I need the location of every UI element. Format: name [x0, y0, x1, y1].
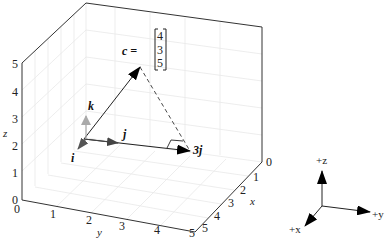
vector-diagram: 5 4 3 2 1 0 z 0 1 2 3 4 5 y 0 1 2 3 4 5 …	[0, 0, 389, 250]
y-axis-line	[22, 200, 195, 232]
x-axis-ticks: 0 1 2 3 4 5 x	[202, 155, 272, 235]
svg-text:3: 3	[228, 196, 234, 210]
y-axis-label: y	[96, 226, 102, 238]
projection-dashed-line	[140, 67, 190, 151]
svg-text:5: 5	[189, 226, 195, 240]
vector-i-label: i	[71, 151, 75, 165]
svg-text:4: 4	[154, 223, 160, 237]
vector-k-label: k	[88, 99, 94, 113]
vector-i	[78, 139, 86, 149]
figure-caption-clipped	[110, 243, 290, 250]
vector-c-label: c =	[122, 44, 137, 58]
right-angle-marker	[167, 140, 183, 148]
orientation-triad: +z +y +x	[289, 154, 384, 235]
svg-text:4: 4	[12, 85, 18, 99]
matrix-entry-2: 3	[157, 43, 163, 57]
svg-text:3: 3	[12, 112, 18, 126]
grid	[22, 3, 262, 226]
y-axis-ticks: 0 1 2 3 4 5 y	[14, 202, 195, 240]
svg-text:2: 2	[240, 183, 246, 197]
vectors	[78, 67, 190, 151]
triad-y-label: +y	[372, 208, 384, 220]
svg-text:1: 1	[12, 166, 18, 180]
matrix-entry-1: 4	[157, 29, 163, 43]
svg-text:2: 2	[86, 213, 92, 227]
x-axis-label: x	[249, 195, 255, 207]
svg-text:1: 1	[50, 207, 56, 221]
svg-text:3: 3	[119, 219, 125, 233]
z-axis-label: z	[2, 127, 8, 139]
vector-j	[84, 139, 118, 143]
vector-j-label: j	[121, 127, 127, 141]
triad-x-label: +x	[289, 223, 301, 235]
svg-text:5: 5	[202, 221, 208, 235]
triad-z-label: +z	[316, 154, 327, 166]
svg-text:1: 1	[253, 170, 259, 184]
svg-text:4: 4	[214, 209, 220, 223]
vector-3j-label: 3j	[192, 143, 203, 157]
svg-text:5: 5	[12, 57, 18, 71]
svg-text:0: 0	[14, 202, 20, 216]
matrix-right-bracket	[163, 29, 166, 70]
z-axis-ticks: 5 4 3 2 1 0 z	[2, 57, 18, 207]
svg-text:2: 2	[12, 139, 18, 153]
svg-text:0: 0	[266, 155, 272, 169]
matrix-entry-3: 5	[157, 56, 163, 70]
